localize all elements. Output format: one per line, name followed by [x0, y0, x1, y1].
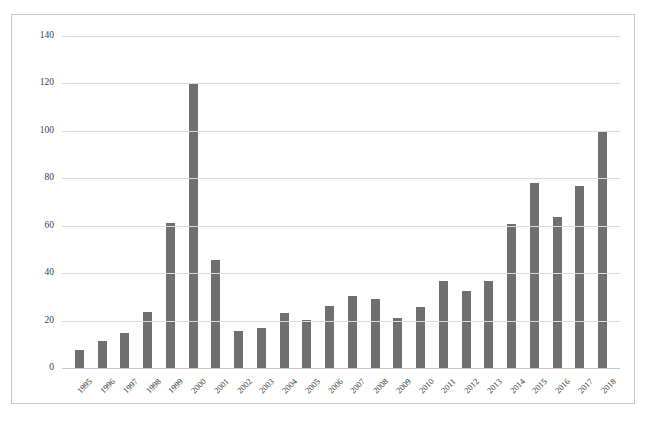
bar[interactable]: [189, 84, 198, 369]
bar[interactable]: [325, 306, 334, 369]
x-label-slot: 2001: [205, 371, 228, 415]
y-axis-tick-label: 140: [40, 31, 54, 41]
x-label-slot: 2012: [455, 371, 478, 415]
gridline: 100: [62, 131, 620, 132]
bar[interactable]: [280, 313, 289, 369]
x-label-slot: 2006: [318, 371, 341, 415]
gridline: 40: [62, 273, 620, 274]
x-label-slot: 2013: [478, 371, 501, 415]
bar-slot: [546, 37, 569, 369]
bar[interactable]: [484, 281, 493, 369]
bar-slot: [68, 37, 91, 369]
y-axis-tick-label: 100: [40, 126, 54, 136]
bar-slot: [364, 37, 387, 369]
bar[interactable]: [98, 341, 107, 369]
bar[interactable]: [553, 217, 562, 369]
x-label-slot: 2011: [432, 371, 455, 415]
bar-slot: [341, 37, 364, 369]
y-axis-tick-label: 80: [45, 174, 55, 184]
x-label-slot: 1999: [159, 371, 182, 415]
x-label-slot: 2017: [569, 371, 592, 415]
bar-slot: [569, 37, 592, 369]
x-label-slot: 2018: [591, 371, 614, 415]
y-axis-tick-label: 0: [49, 363, 54, 373]
x-label-slot: 2015: [523, 371, 546, 415]
x-label-slot: 1995: [68, 371, 91, 415]
bar-slot: [523, 37, 546, 369]
y-axis-tick-label: 40: [45, 268, 55, 278]
bar-slot: [387, 37, 410, 369]
axis-baseline: 0: [62, 368, 620, 369]
y-axis-tick-label: 120: [40, 79, 54, 89]
x-label-slot: 1997: [114, 371, 137, 415]
x-label-slot: 2002: [227, 371, 250, 415]
bar[interactable]: [530, 183, 539, 369]
bar-slot: [182, 37, 205, 369]
bar-slot: [114, 37, 137, 369]
bar-slot: [318, 37, 341, 369]
plot-area: 140120100806040200: [62, 37, 620, 369]
bar-slot: [478, 37, 501, 369]
bar[interactable]: [234, 331, 243, 369]
bar[interactable]: [75, 350, 84, 369]
x-label-slot: 1996: [91, 371, 114, 415]
x-label-slot: 2009: [387, 371, 410, 415]
x-axis-tick-label: 2018: [599, 377, 617, 395]
bar[interactable]: [462, 291, 471, 369]
figure-caption: [0, 416, 647, 426]
x-label-slot: 2007: [341, 371, 364, 415]
bar-slot: [296, 37, 319, 369]
bar[interactable]: [393, 318, 402, 369]
x-label-slot: 2008: [364, 371, 387, 415]
bar[interactable]: [348, 296, 357, 370]
bar-slot: [205, 37, 228, 369]
bar[interactable]: [439, 281, 448, 369]
y-axis-tick-label: 20: [45, 316, 55, 326]
figure-container: 140120100806040200 199519961997199819992…: [0, 0, 647, 433]
x-label-slot: 2010: [409, 371, 432, 415]
chart-frame: 140120100806040200 199519961997199819992…: [11, 14, 635, 404]
bar[interactable]: [302, 320, 311, 369]
bar-slot: [273, 37, 296, 369]
bar-series: [62, 37, 620, 369]
bar-slot: [591, 37, 614, 369]
bar[interactable]: [166, 223, 175, 369]
bar-slot: [409, 37, 432, 369]
bar-slot: [136, 37, 159, 369]
bar[interactable]: [416, 307, 425, 369]
x-label-slot: 2004: [273, 371, 296, 415]
gridline: 80: [62, 178, 620, 179]
gridline: 60: [62, 226, 620, 227]
y-axis-tick-label: 60: [45, 221, 55, 231]
bar-slot: [455, 37, 478, 369]
bar-slot: [250, 37, 273, 369]
bar[interactable]: [257, 328, 266, 370]
gridline: 120: [62, 83, 620, 84]
bar-slot: [432, 37, 455, 369]
bar[interactable]: [371, 299, 380, 369]
x-label-slot: 2000: [182, 371, 205, 415]
x-label-slot: 2016: [546, 371, 569, 415]
gridline: 140: [62, 36, 620, 37]
bar-slot: [227, 37, 250, 369]
x-label-slot: 2014: [500, 371, 523, 415]
bar[interactable]: [598, 132, 607, 369]
x-label-slot: 2003: [250, 371, 273, 415]
bar[interactable]: [120, 333, 129, 369]
bar-slot: [500, 37, 523, 369]
x-label-slot: 1998: [136, 371, 159, 415]
bar[interactable]: [575, 186, 584, 369]
bar-slot: [91, 37, 114, 369]
bar[interactable]: [507, 224, 516, 369]
x-label-slot: 2005: [296, 371, 319, 415]
bar[interactable]: [211, 260, 220, 369]
gridline: 20: [62, 321, 620, 322]
x-axis-tick-labels: 1995199619971998199920002001200220032004…: [62, 371, 620, 415]
bar-slot: [159, 37, 182, 369]
